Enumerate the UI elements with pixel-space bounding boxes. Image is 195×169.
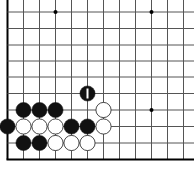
black-stone bbox=[16, 135, 31, 150]
white-stone bbox=[96, 102, 111, 117]
black-stone bbox=[80, 86, 95, 101]
white-stone bbox=[96, 119, 111, 134]
move-number-marker bbox=[87, 89, 89, 99]
black-stone-circle bbox=[0, 119, 15, 134]
black-stone-circle bbox=[48, 102, 63, 117]
black-stone-circle bbox=[32, 102, 47, 117]
go-board bbox=[0, 0, 194, 169]
white-stone-circle bbox=[32, 119, 47, 134]
white-stone-circle bbox=[96, 119, 111, 134]
white-stone-circle bbox=[48, 135, 63, 150]
white-stone bbox=[32, 119, 47, 134]
board-grid bbox=[7, 0, 195, 160]
white-stone-circle bbox=[64, 135, 79, 150]
star-point bbox=[150, 108, 154, 112]
white-stone-circle bbox=[80, 135, 95, 150]
black-stone bbox=[16, 102, 31, 117]
white-stone-circle bbox=[96, 102, 111, 117]
black-stone-circle bbox=[16, 135, 31, 150]
black-stone-circle bbox=[64, 119, 79, 134]
black-stone-circle bbox=[80, 119, 95, 134]
white-stone-circle bbox=[16, 119, 31, 134]
white-stone bbox=[80, 135, 95, 150]
white-stone bbox=[16, 119, 31, 134]
white-stone bbox=[64, 135, 79, 150]
black-stone bbox=[32, 102, 47, 117]
white-stone-circle bbox=[48, 119, 63, 134]
black-stone bbox=[48, 102, 63, 117]
white-stone bbox=[48, 119, 63, 134]
black-stone-circle bbox=[16, 102, 31, 117]
black-stone bbox=[64, 119, 79, 134]
black-stone bbox=[80, 119, 95, 134]
black-stone bbox=[32, 135, 47, 150]
black-stone-circle bbox=[32, 135, 47, 150]
white-stone bbox=[48, 135, 63, 150]
black-stone bbox=[0, 119, 15, 134]
star-point bbox=[54, 10, 58, 14]
star-point bbox=[150, 10, 154, 14]
